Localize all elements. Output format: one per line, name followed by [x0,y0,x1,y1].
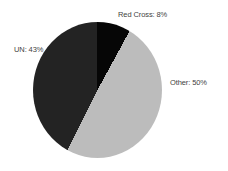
slice-label-red-cross: Red Cross: 8% [118,10,167,19]
pie-chart: Red Cross: 8% UN: 43% Other: 50% [0,0,228,171]
slice-label-un: UN: 43% [14,45,43,54]
pie [33,22,162,158]
slice-label-other: Other: 50% [170,78,207,87]
